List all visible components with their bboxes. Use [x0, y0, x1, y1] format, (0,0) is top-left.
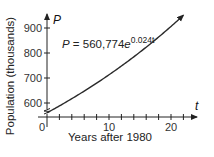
- y-tick-label: 700: [24, 72, 42, 84]
- y-tick-label: 800: [24, 47, 42, 59]
- y-tick-label: 600: [24, 97, 42, 109]
- y-tick-label: 900: [24, 22, 42, 34]
- x-tick-label: 20: [165, 121, 177, 133]
- equation-rhs: = 560,774: [70, 38, 125, 50]
- population-curve: [47, 15, 183, 113]
- chart: Population (thousands) Years after 1980 …: [0, 0, 214, 157]
- equation-label: P = 560,774e0.024t: [62, 35, 155, 50]
- equation-exponent: 0.024t: [131, 35, 155, 45]
- x-axis-variable-label: t: [195, 99, 199, 113]
- y-axis-title: Population (thousands): [4, 17, 16, 135]
- x-tick-label: 0: [39, 121, 45, 133]
- y-axis-variable-label: P: [53, 13, 61, 27]
- x-tick-label: 10: [103, 121, 115, 133]
